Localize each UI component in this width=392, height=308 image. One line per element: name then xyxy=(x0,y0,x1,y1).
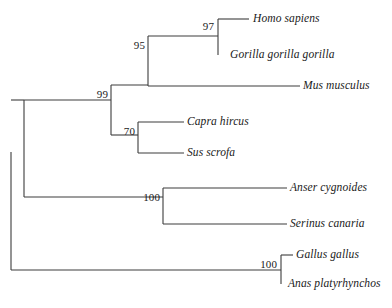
taxon-label-sus-scrofa: Sus scrofa xyxy=(187,147,235,159)
taxon-label-anser-cygnoides: Anser cygnoides xyxy=(290,182,367,194)
support-value-node-70: 70 xyxy=(124,126,135,137)
phylogenetic-tree-figure: Homo sapiensGorilla gorilla gorillaMus m… xyxy=(0,0,392,308)
taxon-label-serinus-canaria: Serinus canaria xyxy=(290,218,365,230)
support-value-node-99: 99 xyxy=(97,89,108,100)
support-value-node-100-fowl: 100 xyxy=(260,259,277,270)
support-value-node-97: 97 xyxy=(203,21,214,32)
taxon-label-homo-sapiens: Homo sapiens xyxy=(253,13,320,25)
taxon-label-anas-platyrhynchos: Anas platyrhynchos xyxy=(288,278,381,290)
taxon-label-gorilla: Gorilla gorilla gorilla xyxy=(230,49,335,61)
support-value-node-100-birds: 100 xyxy=(143,192,160,203)
taxon-label-capra-hircus: Capra hircus xyxy=(187,116,249,128)
taxon-label-gallus-gallus: Gallus gallus xyxy=(296,249,359,261)
taxon-label-mus-musculus: Mus musculus xyxy=(303,80,370,92)
support-value-node-95: 95 xyxy=(134,40,145,51)
